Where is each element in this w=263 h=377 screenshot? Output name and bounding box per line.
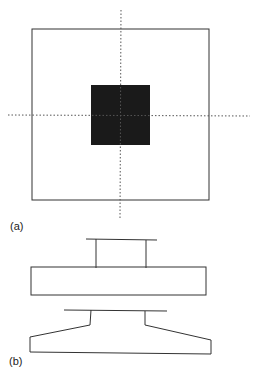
- figure-canvas: [0, 0, 263, 377]
- panel-a-label: (a): [10, 220, 23, 232]
- panel-a-plan-view: [8, 10, 250, 219]
- panel-b-tapered-base: [30, 310, 211, 354]
- panel-b-upper-block: [31, 239, 206, 295]
- panel-b-label: (b): [9, 355, 22, 367]
